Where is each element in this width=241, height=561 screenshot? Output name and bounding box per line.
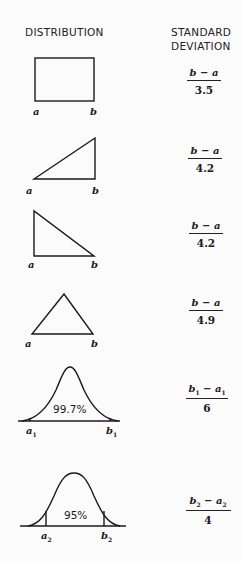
isosceles-triangle-shape	[32, 294, 93, 334]
num-a-sub: 2	[222, 501, 226, 508]
formula-isosceles: b − a 4.9	[176, 297, 236, 326]
right-triangle-descending-shape	[34, 211, 94, 256]
formula-normal-95: b2 − a2 4	[178, 495, 238, 526]
formula-uniform: b − a 3.5	[174, 67, 234, 96]
formula-numerator: b − a	[174, 67, 234, 80]
formula-tri-ascending: b − a 4.2	[175, 145, 235, 174]
normal-1-label-a: a1	[26, 425, 37, 438]
tri1-label-a: a	[26, 185, 32, 196]
tri2-label-a: a	[28, 259, 34, 270]
right-triangle-ascending-shape	[34, 138, 95, 179]
num-minus: −	[200, 383, 215, 394]
normal-2-label-a: a2	[41, 530, 52, 543]
normal-1-a-sub: 1	[32, 431, 36, 438]
tri2-label-b: b	[91, 259, 98, 270]
formula-denominator: 3.5	[174, 81, 234, 96]
tri3-label-a: a	[25, 338, 31, 349]
normal-1-b-sub: 1	[113, 431, 117, 438]
formula-normal-99: b1 − a1 6	[177, 383, 237, 414]
num-a-sub: 1	[221, 389, 225, 396]
normal-2-label-b: b2	[101, 530, 112, 543]
formula-numerator: b − a	[176, 297, 236, 310]
tri3-label-b: b	[91, 338, 98, 349]
formula-denominator: 4	[178, 511, 238, 526]
normal-1-percent: 99.7%	[53, 403, 86, 415]
formula-denominator: 4.2	[176, 234, 236, 249]
normal-1-b: b	[106, 425, 113, 436]
formula-numerator: b − a	[176, 220, 236, 233]
formula-numerator: b1 − a1	[177, 383, 237, 398]
normal-2-a-sub: 2	[47, 536, 51, 543]
tri1-label-b: b	[92, 185, 99, 196]
normal-2-b: b	[101, 530, 108, 541]
rect-label-b: b	[90, 106, 97, 117]
formula-denominator: 4.2	[175, 159, 235, 174]
formula-numerator: b − a	[175, 145, 235, 158]
formula-tri-descending: b − a 4.2	[176, 220, 236, 249]
uniform-rectangle-shape	[35, 58, 94, 101]
num-minus: −	[201, 495, 216, 506]
normal-2-percent: 95%	[64, 509, 87, 521]
formula-denominator: 4.9	[176, 311, 236, 326]
rect-label-a: a	[33, 106, 39, 117]
formula-numerator: b2 − a2	[178, 495, 238, 510]
normal-2-b-sub: 2	[108, 536, 112, 543]
formula-denominator: 6	[177, 399, 237, 414]
normal-1-label-b: b1	[106, 425, 117, 438]
